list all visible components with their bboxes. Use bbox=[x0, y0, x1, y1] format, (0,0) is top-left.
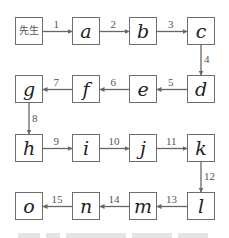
edge-label: 14 bbox=[109, 194, 120, 205]
node-d: d bbox=[187, 75, 215, 103]
flowchart: 先生abcdefghijklmno123456789101112131415 bbox=[0, 0, 229, 238]
node-label: 先生 bbox=[19, 26, 39, 36]
node-label: b bbox=[137, 22, 149, 41]
node-label: h bbox=[23, 139, 35, 158]
edge-label: 5 bbox=[168, 77, 174, 88]
node-label: a bbox=[80, 22, 91, 41]
node-c: c bbox=[187, 17, 215, 45]
edge-label: 15 bbox=[52, 194, 63, 205]
node-label: l bbox=[198, 197, 204, 216]
node-k: k bbox=[187, 134, 215, 162]
edge-label: 8 bbox=[32, 113, 38, 124]
node-label: c bbox=[196, 22, 207, 41]
node-h: h bbox=[15, 134, 43, 162]
node-f: f bbox=[72, 75, 100, 103]
node-start: 先生 bbox=[15, 17, 43, 45]
node-label: f bbox=[82, 80, 89, 99]
edge-label: 2 bbox=[111, 19, 117, 30]
edge-label: 13 bbox=[166, 194, 177, 205]
node-m: m bbox=[129, 192, 157, 220]
node-label: m bbox=[134, 197, 152, 216]
node-label: i bbox=[83, 139, 89, 158]
edge-label: 4 bbox=[204, 54, 210, 65]
node-label: o bbox=[23, 197, 34, 216]
edge-label: 1 bbox=[54, 19, 60, 30]
node-label: e bbox=[137, 80, 148, 99]
node-a: a bbox=[72, 17, 100, 45]
edge-label: 6 bbox=[111, 77, 117, 88]
caption-cropped bbox=[18, 233, 208, 238]
node-label: d bbox=[195, 80, 207, 99]
edge-label: 10 bbox=[109, 136, 120, 147]
node-label: g bbox=[23, 80, 35, 99]
node-b: b bbox=[129, 17, 157, 45]
node-e: e bbox=[129, 75, 157, 103]
node-i: i bbox=[72, 134, 100, 162]
node-j: j bbox=[129, 134, 157, 162]
node-o: o bbox=[15, 192, 43, 220]
node-label: n bbox=[80, 197, 92, 216]
edge-label: 7 bbox=[54, 77, 60, 88]
edge-label: 3 bbox=[168, 19, 174, 30]
node-label: j bbox=[140, 139, 146, 158]
edge-label: 11 bbox=[166, 136, 177, 147]
edge-label: 12 bbox=[204, 171, 215, 182]
node-label: k bbox=[195, 139, 207, 158]
node-l: l bbox=[187, 192, 215, 220]
edge-label: 9 bbox=[54, 136, 60, 147]
node-g: g bbox=[15, 75, 43, 103]
node-n: n bbox=[72, 192, 100, 220]
